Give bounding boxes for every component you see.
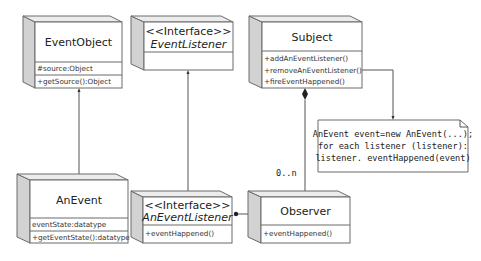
interface-aneventlistener[interactable]: <<Interface>> AnEventListener +eventHapp… (131, 191, 234, 243)
uml-class-diagram: EventObject #source:Object +getSource():… (0, 0, 481, 261)
class-method: +eventHappened() (263, 229, 332, 238)
class-observer[interactable]: Observer +eventHappened() (248, 191, 350, 243)
class-name: AnEvent (56, 194, 103, 207)
association-dot-icon (234, 212, 238, 216)
class-name: EventListener (151, 38, 228, 51)
class-method: +getEventState():datatype (32, 233, 130, 242)
arrowhead-icon (392, 116, 395, 120)
class-method: +eventHappened() (145, 229, 214, 238)
class-attribute: eventState:datatype (32, 220, 107, 229)
stereotype-label: <<Interface>> (145, 25, 231, 38)
note-link (362, 70, 393, 118)
note-line: AnEvent event=new AnEvent(...); (313, 129, 473, 139)
class-method: +addAnEventListener() (264, 54, 348, 63)
composition-diamond-icon (302, 88, 308, 100)
class-name: Observer (280, 205, 331, 218)
class-attribute: #source:Object (37, 64, 93, 73)
class-eventobject[interactable]: EventObject #source:Object +getSource():… (23, 16, 122, 88)
note[interactable]: AnEvent event=new AnEvent(...); for each… (313, 120, 473, 172)
class-name: EventObject (45, 36, 113, 49)
class-subject[interactable]: Subject +addAnEventListener() +removeAnE… (249, 16, 362, 88)
interface-eventlistener[interactable]: <<Interface>> EventListener (131, 16, 233, 70)
class-name: Subject (291, 31, 333, 44)
class-name: AnEventListener (141, 211, 234, 224)
arrowhead-icon (187, 70, 190, 74)
multiplicity-label: 0..n (276, 168, 297, 178)
class-anevent[interactable]: AnEvent eventState:datatype +getEventSta… (17, 174, 130, 243)
note-line: listener. eventHappened(event) (315, 153, 470, 163)
class-method: +fireEventHappened() (264, 77, 345, 86)
arrowhead-icon (78, 88, 81, 92)
class-method: +getSource():Object (37, 77, 111, 86)
class-method: +removeAnEventListener() (264, 66, 362, 75)
note-line: for each listener (listener): (318, 141, 468, 151)
